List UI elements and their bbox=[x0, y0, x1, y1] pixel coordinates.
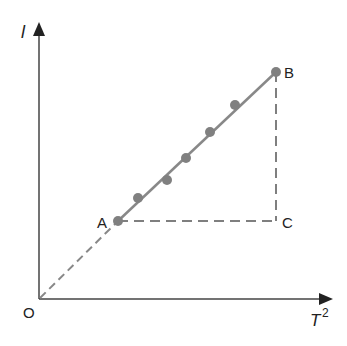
point-label-B: B bbox=[284, 64, 294, 81]
x-axis-label: T bbox=[310, 311, 322, 330]
data-point bbox=[162, 175, 172, 185]
y-axis-arrow-icon bbox=[33, 22, 45, 36]
x-axis-arrow-icon bbox=[319, 293, 333, 305]
x-axis-label-superscript: 2 bbox=[322, 306, 329, 320]
data-point bbox=[230, 100, 240, 110]
y-axis-label: l bbox=[21, 22, 26, 42]
extrapolation-line bbox=[40, 221, 118, 298]
gradient-diagram: l O T 2 A B C bbox=[0, 0, 347, 346]
data-point-A bbox=[113, 216, 123, 226]
origin-label: O bbox=[23, 304, 35, 321]
point-label-C: C bbox=[282, 214, 293, 231]
data-point-B bbox=[271, 67, 281, 77]
data-point bbox=[205, 127, 215, 137]
point-label-A: A bbox=[97, 214, 107, 231]
data-point bbox=[133, 193, 143, 203]
data-point bbox=[181, 153, 191, 163]
